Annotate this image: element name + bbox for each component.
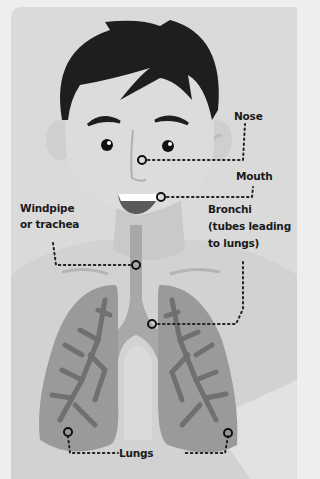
label-windpipe-2: or trachea [20, 216, 79, 232]
label-bronchi-3: to lungs) [208, 235, 259, 251]
label-bronchi-2: (tubes leading [208, 218, 291, 234]
label-bronchi-1: Bronchi [208, 201, 252, 217]
left-eye [101, 139, 113, 151]
label-lungs: Lungs [119, 445, 153, 461]
label-windpipe-1: Windpipe [20, 200, 74, 216]
right-eye [162, 140, 174, 152]
label-nose: Nose [234, 108, 263, 124]
label-mouth: Mouth [236, 168, 273, 184]
